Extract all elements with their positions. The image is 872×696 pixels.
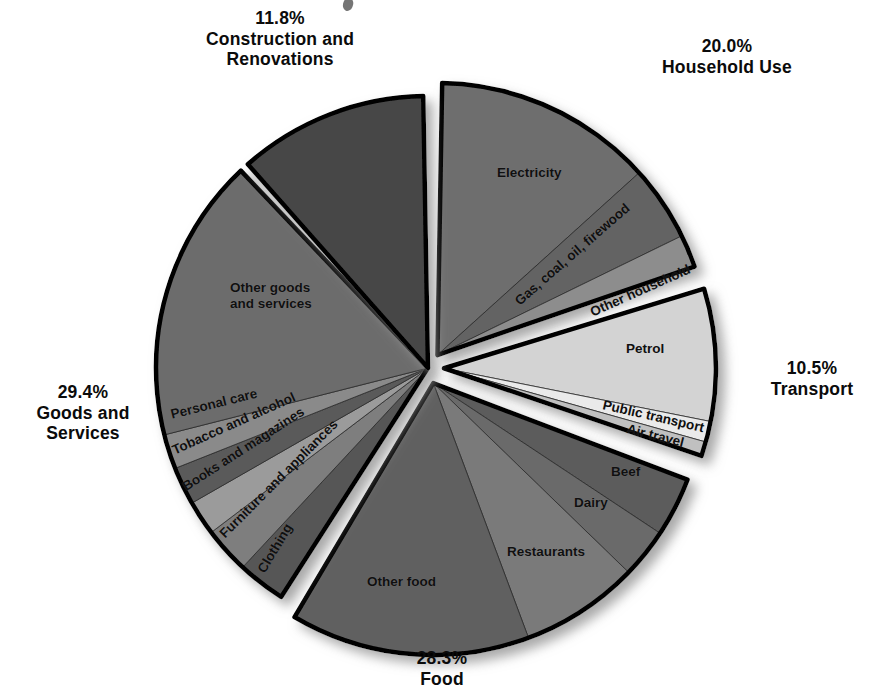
slice-label-other-goods-and-services: Other goods and services bbox=[230, 280, 312, 311]
slice-label-other-food: Other food bbox=[367, 574, 436, 590]
group-label-household: 20.0% Household Use bbox=[622, 36, 832, 77]
group-label-transport: 10.5% Transport bbox=[752, 358, 872, 399]
pie-slices-group bbox=[156, 83, 716, 655]
pie-chart-figure: 11.8% Construction and Renovations 20.0%… bbox=[0, 0, 872, 696]
group-label-construction: 11.8% Construction and Renovations bbox=[170, 8, 390, 70]
slice-label-restaurants: Restaurants bbox=[507, 544, 585, 560]
slice-label-beef: Beef bbox=[611, 464, 640, 480]
slice-label-dairy: Dairy bbox=[574, 495, 608, 511]
slice-label-electricity: Electricity bbox=[497, 165, 562, 181]
slice-label-petrol: Petrol bbox=[626, 341, 664, 357]
pie-chart-canvas bbox=[0, 0, 872, 696]
group-label-goods: 29.4% Goods and Services bbox=[8, 382, 158, 444]
group-label-food: 28.3% Food bbox=[362, 648, 522, 689]
